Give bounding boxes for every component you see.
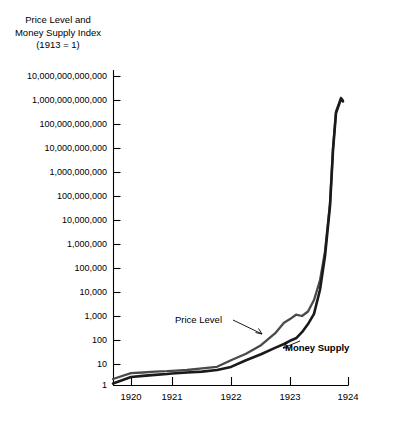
chart-figure: Price Level and Money Supply Index (1913… xyxy=(0,0,396,423)
series-lines xyxy=(113,98,343,384)
axis-lines xyxy=(113,70,349,386)
price-level-line xyxy=(113,98,343,379)
price-level-leader xyxy=(233,320,262,334)
annotation-leader-lines xyxy=(233,320,300,348)
chart-canvas xyxy=(0,0,396,423)
x-axis-ticks xyxy=(132,377,291,386)
money-supply-line xyxy=(113,99,343,384)
y-axis-ticks xyxy=(114,77,121,365)
